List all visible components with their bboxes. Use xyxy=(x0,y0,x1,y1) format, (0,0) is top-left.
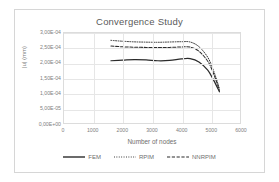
y-tick-label: 5,00E-05 xyxy=(17,105,61,111)
x-axis-title: Number of nodes xyxy=(63,138,241,145)
gridline-vertical xyxy=(212,33,213,123)
chart-legend: FEMRPIMNNRPIM xyxy=(15,154,264,160)
plot-area xyxy=(63,32,241,124)
y-tick-label: 2,50E-04 xyxy=(17,44,61,50)
legend-item-rpim[interactable]: RPIM xyxy=(114,154,154,160)
y-tick-label: 1,00E-04 xyxy=(17,90,61,96)
legend-label: RPIM xyxy=(139,154,154,160)
series-line-nnrpim xyxy=(111,46,220,90)
y-axis-tick-labels: 0,00E+005,00E-051,00E-041,50E-042,00E-04… xyxy=(15,32,61,124)
chart-figure: Convergence Study |u| (mm) 0,00E+005,00E… xyxy=(14,9,265,173)
x-axis-tick-labels: 0100020003000400050006000 xyxy=(63,127,241,137)
y-tick-label: 0,00E+00 xyxy=(17,121,61,127)
legend-swatch-dotted xyxy=(114,154,136,160)
gridline-vertical xyxy=(153,33,154,123)
legend-label: FEM xyxy=(88,154,101,160)
y-tick-label: 3,00E-04 xyxy=(17,29,61,35)
gridline-horizontal xyxy=(64,79,240,80)
legend-item-fem[interactable]: FEM xyxy=(63,154,101,160)
gridline-horizontal xyxy=(64,64,240,65)
gridline-horizontal xyxy=(64,110,240,111)
chart-title: Convergence Study xyxy=(15,16,264,27)
x-tick-label: 6000 xyxy=(221,127,261,133)
legend-label: NNRPIM xyxy=(192,154,216,160)
legend-swatch-solid xyxy=(63,154,85,160)
legend-swatch-dashed xyxy=(167,154,189,160)
y-tick-label: 1,50E-04 xyxy=(17,75,61,81)
legend-item-nnrpim[interactable]: NNRPIM xyxy=(167,154,216,160)
gridline-vertical xyxy=(94,33,95,123)
gridline-vertical xyxy=(123,33,124,123)
gridline-horizontal xyxy=(64,33,240,34)
gridline-horizontal xyxy=(64,48,240,49)
y-tick-label: 2,00E-04 xyxy=(17,59,61,65)
gridline-horizontal xyxy=(64,94,240,95)
gridline-vertical xyxy=(183,33,184,123)
